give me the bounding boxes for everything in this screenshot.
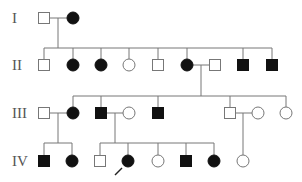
proband-arrow-icon	[115, 168, 122, 175]
unaffected-male-square-icon	[225, 108, 236, 119]
unaffected-female-circle-icon	[237, 155, 249, 167]
generation-label: II	[12, 57, 22, 73]
unaffected-male-square-icon	[210, 60, 221, 71]
affected-female-circle-icon	[67, 12, 79, 24]
pedigree-chart: IIIIIIIV	[0, 0, 302, 182]
generation-labels: IIIIIIIV	[12, 10, 28, 169]
unaffected-female-circle-icon	[123, 107, 135, 119]
generation-label: IV	[12, 153, 28, 169]
unaffected-female-circle-icon	[280, 107, 292, 119]
unaffected-male-square-icon	[39, 13, 50, 24]
affected-male-square-icon	[181, 156, 192, 167]
affected-female-circle-icon	[95, 59, 107, 71]
unaffected-male-square-icon	[39, 108, 50, 119]
affected-female-circle-icon	[208, 155, 220, 167]
individuals	[39, 12, 293, 167]
unaffected-male-square-icon	[153, 60, 164, 71]
unaffected-female-circle-icon	[252, 107, 264, 119]
relationship-lines	[44, 18, 286, 155]
unaffected-female-circle-icon	[123, 59, 135, 71]
affected-male-square-icon	[39, 156, 50, 167]
affected-male-square-icon	[153, 108, 164, 119]
affected-male-square-icon	[238, 60, 249, 71]
affected-female-circle-icon	[67, 59, 79, 71]
affected-male-square-icon	[267, 60, 278, 71]
affected-female-circle-icon	[122, 155, 134, 167]
generation-label: I	[12, 10, 17, 26]
generation-label: III	[12, 105, 27, 121]
proband-arrow	[115, 168, 122, 175]
affected-female-circle-icon	[66, 155, 78, 167]
unaffected-male-square-icon	[39, 60, 50, 71]
affected-female-circle-icon	[181, 59, 193, 71]
affected-female-circle-icon	[67, 107, 79, 119]
affected-male-square-icon	[96, 108, 107, 119]
unaffected-female-circle-icon	[152, 155, 164, 167]
unaffected-male-square-icon	[95, 156, 106, 167]
